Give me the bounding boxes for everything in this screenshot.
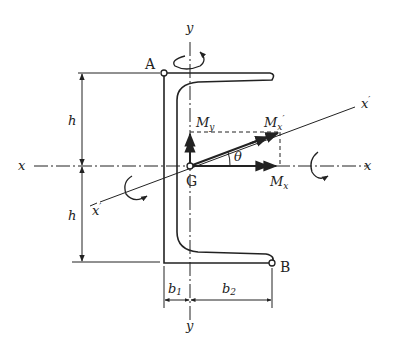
point-a-label: A: [144, 56, 156, 72]
x-prime-left-label: x′: [92, 202, 101, 218]
y-axis-top-label: y: [185, 20, 194, 35]
x-axis-left-label: x: [18, 158, 26, 173]
rotation-arrows: [125, 52, 328, 200]
point-a-marker: [161, 70, 167, 76]
x-axis-right-label: x: [364, 158, 372, 173]
theta-label: θ: [234, 149, 242, 164]
point-b-label: B: [280, 259, 290, 275]
x-prime-axis: [100, 107, 355, 202]
point-b-marker: [269, 260, 275, 266]
b1-label: b1: [168, 281, 182, 297]
mx-label: Mx: [269, 174, 288, 191]
mx-prime-label: Mx′: [263, 114, 284, 132]
h-top-label: h: [68, 113, 76, 128]
y-axis-bottom-label: y: [185, 318, 194, 333]
my-label: My: [195, 115, 215, 132]
h-bottom-label: h: [68, 208, 76, 223]
b2-label: b2: [222, 281, 236, 297]
x-prime-right-label: x′: [361, 95, 370, 111]
channel-section: [164, 73, 274, 263]
centroid-g-label: G: [186, 173, 197, 189]
h-dimension: [72, 73, 160, 262]
channel-section-diagram: A B h h b1 b2 x x y y x′ x′: [0, 0, 398, 355]
centroid-g-marker: [187, 163, 193, 169]
